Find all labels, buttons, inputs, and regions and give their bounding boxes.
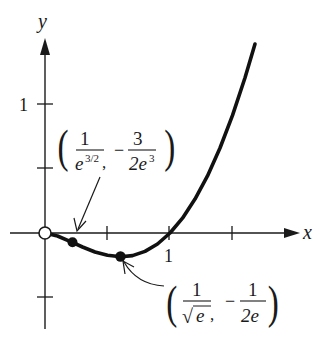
svg-text:3: 3: [133, 128, 143, 149]
svg-text:e: e: [75, 153, 83, 174]
minimum-arrow: [123, 261, 164, 286]
svg-text:,: ,: [102, 153, 106, 172]
svg-text:3: 3: [149, 152, 155, 164]
svg-text:√: √: [182, 305, 193, 327]
x-axis-label: x: [302, 221, 312, 243]
y-axis-label: y: [36, 10, 47, 33]
minimum-point: [115, 251, 125, 261]
minimum-label: ( 1 √ e , − 1 2e ): [166, 277, 279, 329]
x-axis: 1 x: [10, 221, 312, 266]
function-graph: 1 x 1 y ( 1 e 3/2 , − 3 2e 3 ): [0, 0, 335, 349]
svg-text:): ): [268, 277, 279, 329]
x-tick-label-1: 1: [164, 246, 173, 266]
svg-text:1: 1: [248, 279, 258, 300]
svg-text:2e: 2e: [129, 153, 147, 174]
inflection-point: [68, 237, 78, 247]
svg-text:(: (: [58, 121, 69, 173]
svg-text:e: e: [196, 305, 204, 326]
svg-text:): ): [164, 121, 175, 173]
x-axis-arrow-icon: [284, 228, 300, 238]
origin-open-point: [39, 227, 51, 239]
svg-text:1: 1: [192, 279, 202, 300]
y-axis-arrow-icon: [40, 38, 50, 55]
svg-text:−: −: [225, 291, 235, 311]
inflection-label: ( 1 e 3/2 , − 3 2e 3 ): [58, 121, 176, 174]
svg-text:(: (: [166, 277, 177, 329]
svg-text:1: 1: [80, 128, 90, 149]
y-axis: 1 y: [19, 10, 53, 329]
svg-text:3/2: 3/2: [85, 152, 99, 164]
svg-text:2e: 2e: [241, 305, 259, 326]
svg-text:,: ,: [210, 305, 214, 324]
svg-text:−: −: [114, 140, 124, 160]
y-tick-label-1: 1: [19, 95, 28, 115]
inflection-arrow: [74, 177, 100, 231]
